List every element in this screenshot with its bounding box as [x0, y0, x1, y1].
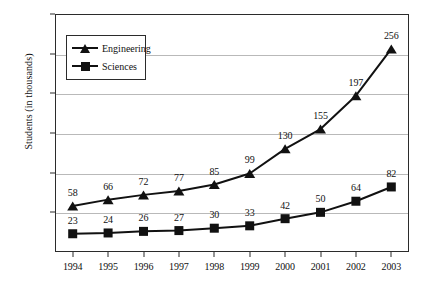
x-tick-mark [355, 252, 356, 257]
data-point-label: 155 [304, 110, 338, 121]
x-tick-mark [249, 252, 250, 257]
x-tick-mark [72, 252, 73, 257]
chart-legend: Engineering Sciences [66, 35, 146, 80]
data-point-label: 33 [233, 207, 267, 218]
data-point-label: 58 [56, 187, 90, 198]
legend-label-sciences: Sciences [102, 61, 137, 72]
x-tick-mark [320, 252, 321, 257]
data-point-label: 26 [127, 212, 161, 223]
triangle-marker-icon [72, 41, 98, 55]
y-tick-mark [50, 53, 55, 54]
data-point-label: 50 [304, 193, 338, 204]
x-tick-mark [285, 252, 286, 257]
gridline [56, 94, 408, 95]
y-tick-mark [50, 93, 55, 94]
y-tick-mark [50, 172, 55, 173]
legend-label-engineering: Engineering [102, 43, 151, 54]
data-point-label: 27 [162, 212, 196, 223]
data-point-label: 66 [91, 181, 125, 192]
y-axis-title: Students (in thousands) [23, 27, 34, 177]
y-tick-mark [50, 133, 55, 134]
data-point-label: 77 [162, 172, 196, 183]
gridline [56, 134, 408, 135]
data-point-label: 130 [268, 130, 302, 141]
data-point-label: 82 [374, 168, 408, 179]
chart-container: Students (in thousands) Engineering Scie… [0, 0, 427, 286]
legend-entry-engineering: Engineering [72, 39, 151, 57]
data-point-label: 72 [127, 176, 161, 187]
data-point-label: 64 [339, 182, 373, 193]
x-tick-mark [108, 252, 109, 257]
data-point-label: 256 [374, 30, 408, 41]
x-tick-mark [391, 252, 392, 257]
data-point-label: 24 [91, 214, 125, 225]
x-tick-mark [178, 252, 179, 257]
data-point-label: 42 [268, 200, 302, 211]
x-tick-mark [214, 252, 215, 257]
square-marker-icon [72, 59, 98, 73]
legend-entry-sciences: Sciences [72, 57, 137, 75]
data-point-label: 85 [197, 166, 231, 177]
x-tick-mark [143, 252, 144, 257]
data-point-label: 99 [233, 154, 267, 165]
y-tick-mark [50, 212, 55, 213]
gridline [56, 174, 408, 175]
data-point-label: 23 [56, 215, 90, 226]
x-tick-label: 2003 [368, 261, 414, 272]
y-tick-mark [50, 14, 55, 15]
data-point-label: 197 [339, 77, 373, 88]
data-point-label: 30 [197, 209, 231, 220]
